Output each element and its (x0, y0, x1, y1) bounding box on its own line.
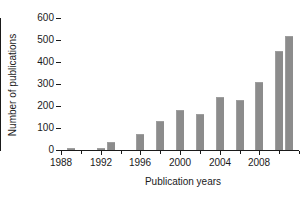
bar (285, 36, 293, 150)
bar (176, 110, 184, 150)
bar (136, 134, 144, 150)
x-tick-mark (200, 151, 201, 154)
bar (255, 82, 263, 150)
bar-chart-figure: Number of publications 01002003004005006… (0, 0, 306, 198)
x-tick-label: 1996 (120, 157, 160, 168)
bar (216, 97, 224, 150)
y-tick-label: 100 (2, 123, 54, 133)
bar (107, 142, 115, 150)
y-tick-label-wrap: 200 (0, 101, 54, 111)
y-tick-label-wrap: 500 (0, 35, 54, 45)
x-tick-mark (101, 151, 102, 155)
y-tick-label: 400 (2, 57, 54, 67)
x-tick-mark (240, 151, 241, 154)
y-tick-label: 500 (2, 35, 54, 45)
y-tick-label-wrap: 300 (0, 79, 54, 89)
x-tick-label: 2004 (200, 157, 240, 168)
x-tick-label: 1988 (41, 157, 81, 168)
x-tick-mark (259, 151, 260, 155)
y-tick-label-wrap: 600 (0, 13, 54, 23)
x-tick-mark (180, 151, 181, 155)
y-tick-label: 0 (2, 145, 54, 155)
y-tick-label-wrap: 100 (0, 123, 54, 133)
y-tick-label: 300 (2, 79, 54, 89)
x-axis-title: Publication years (60, 176, 306, 188)
plot-area (61, 18, 299, 150)
bar (97, 148, 105, 150)
x-tick-mark (299, 151, 300, 154)
x-tick-label: 1992 (81, 157, 121, 168)
bar (67, 148, 75, 150)
bar (236, 100, 244, 150)
x-tick-mark (121, 151, 122, 154)
y-tick-label: 600 (2, 13, 54, 23)
bar (196, 114, 204, 150)
x-tick-mark (81, 151, 82, 154)
x-tick-label: 2000 (160, 157, 200, 168)
y-tick-label: 200 (2, 101, 54, 111)
x-tick-label: 2008 (239, 157, 279, 168)
x-tick-mark (220, 151, 221, 155)
x-tick-mark (140, 151, 141, 155)
bar (275, 51, 283, 150)
x-tick-mark (279, 151, 280, 154)
y-tick-label-wrap: 400 (0, 57, 54, 67)
x-tick-mark (160, 151, 161, 154)
x-tick-mark (61, 151, 62, 155)
bar (156, 121, 164, 150)
y-tick-label-wrap: 0 (0, 145, 54, 155)
